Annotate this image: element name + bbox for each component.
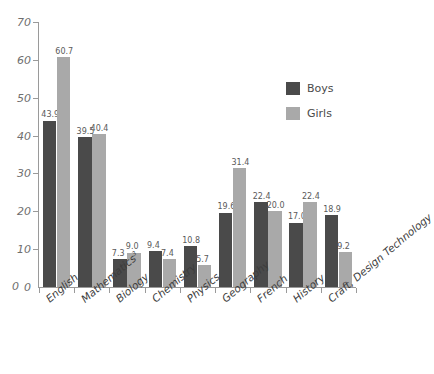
bar-value-label: 22.4 — [253, 193, 271, 201]
bar-group: 18.99.2 — [321, 22, 356, 287]
x-tick-mark — [145, 288, 146, 293]
bar-girls[interactable] — [92, 134, 106, 287]
x-tick-mark — [109, 288, 110, 293]
plot-area: 43.960.739.540.47.39.09.47.410.85.719.63… — [39, 22, 356, 287]
bar-boys[interactable] — [78, 137, 92, 287]
x-tick-mark — [39, 288, 40, 293]
bar-value-label: 7.3 — [112, 250, 125, 258]
x-tick-mark — [215, 288, 216, 293]
bar-boys[interactable] — [149, 251, 163, 287]
bar-boys[interactable] — [289, 223, 303, 287]
y-tick-label: 60 — [0, 55, 31, 66]
y-axis-zero-label: 0 — [12, 281, 19, 292]
x-tick-mark — [74, 288, 75, 293]
bar-boys[interactable] — [325, 215, 339, 287]
y-tick-label: 40 — [0, 131, 31, 142]
bar-group: 10.85.7 — [180, 22, 215, 287]
x-tick-mark — [356, 288, 357, 293]
bar-value-label: 5.7 — [196, 256, 209, 264]
legend-label-girls: Girls — [307, 108, 332, 119]
legend-item-girls: Girls — [286, 107, 334, 120]
bar-girls[interactable] — [57, 57, 71, 287]
y-tick-label: 70 — [0, 17, 31, 28]
x-tick-mark — [180, 288, 181, 293]
legend-swatch-girls-icon — [286, 107, 300, 120]
y-tick-label: 50 — [0, 93, 31, 104]
bar-value-label: 60.7 — [55, 48, 73, 56]
bar-girls[interactable] — [233, 168, 247, 287]
bar-group: 19.631.4 — [215, 22, 250, 287]
legend-item-boys: Boys — [286, 82, 334, 95]
bar-value-label: 31.4 — [231, 159, 249, 167]
x-tick-mark — [286, 288, 287, 293]
bar-value-label: 9.2 — [337, 243, 350, 251]
chart-legend: Boys Girls — [286, 82, 334, 132]
legend-label-boys: Boys — [307, 83, 334, 94]
y-tick-label: 20 — [0, 206, 31, 217]
y-tick-label: 30 — [0, 168, 31, 179]
bar-group: 43.960.7 — [39, 22, 74, 287]
bar-group: 9.47.4 — [145, 22, 180, 287]
bar-group: 39.540.4 — [74, 22, 109, 287]
bar-value-label: 7.4 — [161, 250, 174, 258]
legend-swatch-boys-icon — [286, 82, 300, 95]
bar-value-label: 18.9 — [323, 206, 341, 214]
bar-value-label: 40.4 — [91, 125, 109, 133]
x-tick-mark — [250, 288, 251, 293]
bar-value-label: 10.8 — [182, 237, 200, 245]
x-tick-mark — [321, 288, 322, 293]
bar-boys[interactable] — [43, 121, 57, 287]
bar-value-label: 20.0 — [267, 202, 285, 210]
bar-group: 17.022.4 — [286, 22, 321, 287]
bar-value-label: 9.4 — [147, 242, 160, 250]
bar-group: 7.39.0 — [109, 22, 144, 287]
bar-boys[interactable] — [219, 213, 233, 287]
bar-group: 22.420.0 — [250, 22, 285, 287]
bar-value-label: 22.4 — [302, 193, 320, 201]
y-tick-label: 10 — [0, 244, 31, 255]
